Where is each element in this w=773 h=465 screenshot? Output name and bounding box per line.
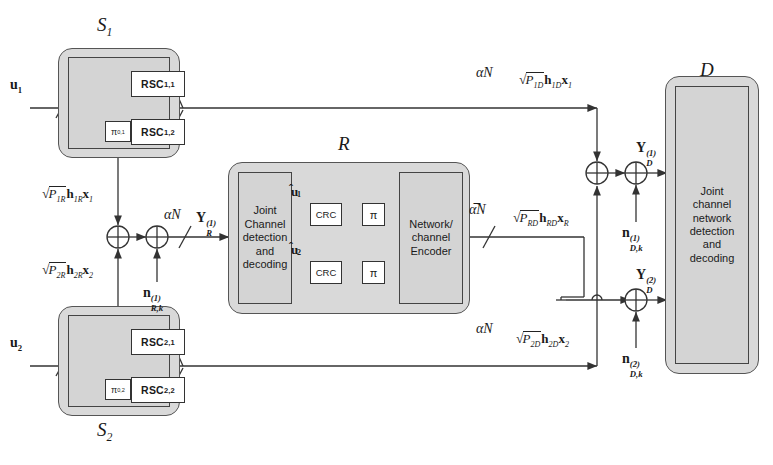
destination-inner[interactable]: Joint channel network detection and deco… — [675, 86, 749, 364]
link-s1d-p-sub: 1D — [533, 81, 543, 90]
relay-encoder-box[interactable]: Network/ channel Encoder — [399, 172, 463, 304]
rsc-2-2-label: RSC — [141, 384, 164, 396]
u-hat-1-label: ̂u1 — [291, 182, 301, 199]
nd2-sup: (2) — [630, 360, 640, 369]
link-s2r-gain: √P2Rh2Rx2 — [42, 262, 93, 280]
u-hat-2-label: ̂u2 — [291, 240, 301, 257]
rsc-1-2-sub: 1,2 — [164, 128, 175, 137]
interleaver-r1-label: π — [370, 209, 378, 221]
link-s2r-p-sub: 2R — [56, 271, 65, 280]
interleaver-r2-box[interactable]: π — [362, 261, 385, 284]
link-s2r-x-sub: 2 — [89, 271, 93, 280]
yr-sup: (1) — [206, 219, 216, 228]
link-rd-gain: √PRDhRDxR — [513, 210, 569, 228]
relay-decoder-line-2: Channel — [245, 218, 286, 231]
rsc-1-2-box[interactable]: RSC1,2 — [131, 119, 185, 145]
relay-decoder-line-3: detection — [243, 231, 288, 244]
link-rd-h-sub: RD — [546, 219, 557, 228]
link-s2r-h: h — [66, 262, 73, 277]
link-rd-p-sub: RD — [527, 219, 538, 228]
source-1-title: S1 — [97, 15, 112, 39]
rsc-2-2-box[interactable]: RSC2,2 — [131, 377, 185, 403]
link-s2d-gain: √P2Dh2Dx2 — [516, 331, 569, 349]
relay-title: R — [338, 134, 350, 153]
relay-decoder-line-1: Joint — [253, 204, 276, 217]
relay-noise-label: n (1) R,k — [143, 286, 173, 300]
link-s1d-x-sub: 1 — [568, 81, 572, 90]
relay-decoder-box[interactable]: Joint Channel detection and decoding — [238, 172, 292, 304]
yd2-sup: (2) — [646, 276, 656, 285]
link-s2d-h-sub: 2D — [549, 340, 559, 349]
yd2-sub: D — [646, 286, 652, 295]
source-1-letter: S — [97, 14, 107, 35]
dest-noise-1-label: n (1) D,k — [622, 226, 652, 240]
rsc-2-1-box[interactable]: RSC2,1 — [131, 329, 185, 355]
link-rd-x-sub: R — [564, 219, 569, 228]
dest-line-3: network — [693, 212, 732, 225]
rsc-2-1-label: RSC — [141, 336, 164, 348]
dest-line-2: channel — [693, 198, 732, 211]
dest-line-1: Joint — [700, 185, 723, 198]
crc-2-box[interactable]: CRC — [310, 261, 342, 284]
u-hat-2-symbol: u — [291, 243, 298, 256]
rsc-1-1-box[interactable]: RSC1,1 — [131, 71, 185, 97]
yd1-sub: D — [646, 159, 652, 168]
interleaver-s2-sub: 0,2 — [117, 387, 125, 393]
destination-title: D — [700, 60, 714, 79]
dest-rx-2-label: Y (2) D — [636, 268, 662, 282]
crc-1-box[interactable]: CRC — [310, 203, 342, 226]
interleaver-s1-sub: 0,1 — [117, 129, 125, 135]
dest-rx-1-label: Y (1) D — [636, 141, 662, 155]
nr-sub: R,k — [151, 304, 163, 313]
link-s2d-p-sub: 2D — [530, 340, 540, 349]
nr-symbol: n — [143, 285, 151, 300]
dest-line-5: and — [703, 238, 721, 251]
source-1-index: 1 — [107, 26, 113, 39]
link-s1r-x-sub: 1 — [89, 195, 93, 204]
nr-sup: (1) — [151, 294, 161, 303]
dest-line-4: detection — [690, 225, 735, 238]
link-s2d-h: h — [541, 331, 548, 346]
nd2-symbol: n — [622, 351, 630, 366]
yr-sub: R — [206, 229, 212, 238]
yd2-symbol: Y — [636, 267, 646, 282]
rsc-2-1-sub: 2,1 — [164, 338, 175, 347]
yr-symbol: Y — [196, 210, 206, 225]
nd1-sub: D,k — [630, 244, 643, 253]
source-2-letter: S — [97, 419, 107, 440]
u1-symbol: u — [10, 77, 18, 92]
link-s1d-h-sub: 1D — [552, 81, 562, 90]
source-2-index: 2 — [107, 431, 113, 444]
source-2-title: S2 — [97, 420, 112, 444]
link-s1r-h: h — [66, 186, 73, 201]
relay-decoder-line-4: and — [256, 245, 274, 258]
rsc-1-1-label: RSC — [141, 78, 164, 90]
nd2-sub: D,k — [630, 370, 643, 379]
interleaver-s2-box[interactable]: π0,2 — [105, 379, 131, 400]
u2-input-label: u2 — [10, 336, 22, 352]
nd1-sup: (1) — [630, 234, 640, 243]
crc-2-label: CRC — [316, 267, 337, 278]
interleaver-s1-box[interactable]: π0,1 — [105, 121, 131, 142]
dest-noise-2-label: n (2) D,k — [622, 352, 652, 366]
interleaver-r1-box[interactable]: π — [362, 203, 385, 226]
link-s1d-gain: √P1Dh1Dx1 — [519, 72, 572, 90]
interleaver-r2-label: π — [370, 267, 378, 279]
relay-input-rate: αN — [164, 208, 181, 222]
link-s1r-h-sub: 1R — [74, 195, 83, 204]
u2-symbol: u — [10, 335, 18, 350]
link-s2r-h-sub: 2R — [74, 271, 83, 280]
yd1-sup: (1) — [646, 149, 656, 158]
diagram-canvas: RSC1,1 RSC1,2 π0,1 S1 u1 RSC2,1 RSC2,2 π… — [0, 0, 773, 465]
u1-index: 1 — [18, 85, 22, 95]
link-s1d-h: h — [544, 72, 551, 87]
relay-encoder-line-1: Network/ — [409, 218, 452, 231]
relay-decoder-line-5: decoding — [243, 258, 288, 271]
link-s2d-x-sub: 2 — [565, 340, 569, 349]
relay-input-signal: Y (1) R — [196, 211, 220, 225]
u1-input-label: u1 — [10, 78, 22, 94]
rsc-1-1-sub: 1,1 — [164, 80, 175, 89]
relay-encoder-line-2: channel — [412, 231, 451, 244]
u-hat-1-symbol: u — [291, 185, 298, 198]
u2-index: 2 — [18, 343, 22, 353]
